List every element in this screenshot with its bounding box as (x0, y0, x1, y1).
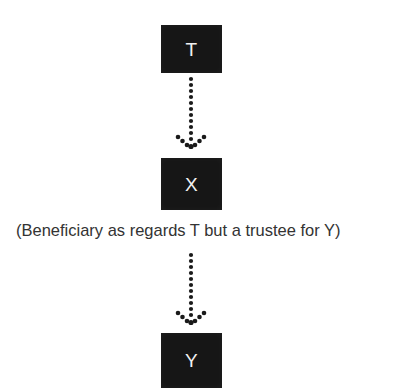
node-y: Y (161, 333, 222, 388)
node-y-label: Y (185, 351, 198, 370)
node-t: T (161, 25, 222, 73)
diagram-canvas: T (0, 0, 401, 388)
caption-beneficiary-trustee: (Beneficiary as regards T but a trustee … (16, 220, 375, 242)
node-t-label: T (185, 40, 197, 59)
node-x: X (161, 158, 222, 210)
node-x-label: X (185, 175, 198, 194)
connector-x-to-y-dotted-arrow-icon (168, 252, 214, 330)
connector-t-to-x-dotted-arrow-icon (168, 76, 214, 154)
